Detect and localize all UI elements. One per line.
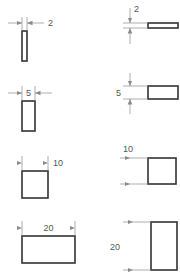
dimension-row: 55: [8, 73, 178, 131]
dimension-group-rectangle-height-2: 2: [123, 4, 178, 44]
rectangle-height-10: [148, 158, 176, 184]
rectangle-width-2: [22, 31, 27, 61]
dimension-row: 22: [8, 4, 178, 61]
dimension-group-rectangle-height-5: 5: [116, 73, 178, 114]
dimension-label: 5: [26, 88, 31, 98]
rectangle-height-2: [148, 23, 178, 28]
dimension-label: 10: [123, 144, 133, 154]
dimension-group-rectangle-width-20: 20: [22, 221, 75, 263]
dimension-group-rectangle-height-10: 10: [120, 144, 176, 184]
dimension-label: 2: [134, 4, 139, 14]
dimension-label: 20: [110, 242, 120, 252]
rectangle-height-5: [148, 86, 178, 99]
dimension-group-rectangle-width-5: 5: [8, 86, 52, 131]
dimension-row: 2020: [22, 221, 177, 270]
rectangle-width-20: [22, 236, 75, 263]
rectangle-width-5: [22, 101, 35, 131]
rectangle-height-20: [151, 222, 177, 270]
dimension-row: 1010: [22, 144, 176, 198]
rectangle-width-10: [22, 171, 48, 198]
dimension-label: 5: [116, 88, 121, 98]
dimension-group-rectangle-width-2: 2: [8, 17, 53, 61]
dimension-group-rectangle-width-10: 10: [22, 156, 63, 198]
dimension-label: 20: [43, 223, 53, 233]
dimension-group-rectangle-height-20: 20: [110, 222, 177, 270]
technical-drawing-canvas: 225510102020: [0, 0, 180, 272]
dimension-label: 10: [53, 158, 63, 168]
dimension-label: 2: [48, 18, 53, 28]
